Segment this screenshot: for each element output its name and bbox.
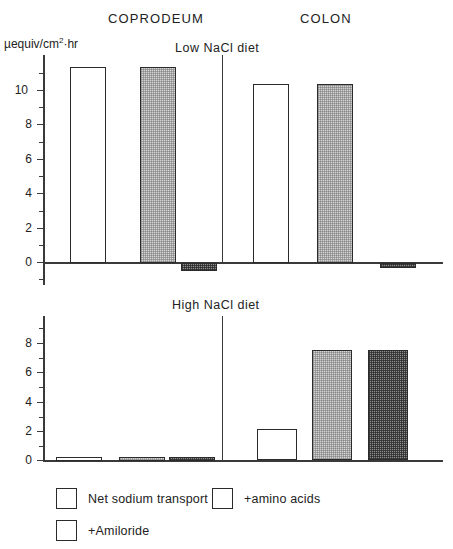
y-tick-label-4-bottom: 4 — [10, 395, 32, 409]
y-tick-major-10-top — [37, 90, 43, 91]
tissue-title-coprodeum: COPRODEUM — [108, 11, 204, 26]
unit-slash: / — [40, 37, 43, 51]
y-tick-label-8-bottom: 8 — [10, 336, 32, 350]
y-tick-major-6-top — [37, 159, 43, 160]
y-tick-major-2-bottom — [37, 431, 43, 432]
panel-divider-bottom — [222, 316, 223, 461]
y-tick-minor-7-bottom — [39, 358, 43, 359]
chart-panel-high-nacl: 0 2 4 6 8 — [0, 312, 453, 472]
legend-item-net-sodium-transport: Net sodium transport — [56, 488, 208, 509]
y-tick-minor-3-bottom — [39, 417, 43, 418]
y-tick-major-6-bottom — [37, 372, 43, 373]
y-tick-major-2-top — [37, 228, 43, 229]
legend-label-amiloride: +Amiloride — [88, 524, 149, 538]
y-tick-major-0-top — [37, 262, 43, 263]
bar-coprodeum-amiloride-high — [169, 457, 215, 461]
y-tick-label-2-bottom: 2 — [10, 424, 32, 438]
panel-divider-top — [222, 55, 223, 263]
y-tick-major-8-top — [37, 124, 43, 125]
y-tick-minor-9-bottom — [39, 328, 43, 329]
tissue-title-colon: COLON — [300, 11, 352, 26]
legend-item-amiloride: +Amiloride — [56, 520, 149, 541]
legend-label-amino-acids: +amino acids — [244, 492, 320, 506]
legend-item-amino-acids: +amino acids — [212, 488, 320, 509]
y-tick-minor-11-top — [39, 73, 43, 74]
y-tick-major-4-top — [37, 193, 43, 194]
y-tick-minor-3-top — [39, 211, 43, 212]
x-axis-baseline-bottom — [43, 460, 443, 462]
y-tick-minor-5-bottom — [39, 387, 43, 388]
y-tick-label-10-top: 10 — [6, 83, 28, 97]
y-tick-minor-1-top — [39, 245, 43, 246]
bar-coprodeum-amino-acids-low — [140, 67, 176, 263]
legend-swatch-white-icon — [56, 488, 77, 509]
y-tick-label-0-top: 0 — [10, 255, 32, 269]
bar-colon-amino-acids-high — [312, 350, 352, 460]
y-axis-unit-label: µequiv/cm2·hr — [4, 36, 78, 51]
y-tick-label-6-bottom: 6 — [10, 365, 32, 379]
legend-swatch-dark-gray-icon — [56, 520, 77, 541]
y-tick-major-8-bottom — [37, 343, 43, 344]
y-tick-minor-1-bottom — [39, 446, 43, 447]
bar-colon-net-sodium-high — [257, 429, 297, 460]
y-tick-label-0-bottom: 0 — [10, 453, 32, 467]
y-axis-line-top — [43, 55, 45, 285]
y-axis-line-bottom — [43, 316, 45, 462]
bar-coprodeum-amiloride-low — [181, 263, 217, 271]
unit-suffix: ·hr — [63, 37, 78, 51]
bar-colon-amiloride-high — [368, 350, 408, 460]
diet-title-low: Low NaCl diet — [175, 41, 259, 55]
bar-colon-amino-acids-low — [317, 84, 353, 263]
bar-colon-net-sodium-low — [253, 84, 289, 263]
chart-panel-low-nacl: 0 2 4 6 8 10 — [0, 55, 453, 290]
bar-coprodeum-net-sodium-high — [56, 457, 102, 461]
bar-coprodeum-amino-acids-high — [119, 457, 165, 461]
legend-swatch-light-gray-icon — [212, 488, 233, 509]
y-tick-label-2-top: 2 — [10, 221, 32, 235]
y-tick-major-4-bottom — [37, 402, 43, 403]
unit-denominator: cm — [43, 37, 59, 51]
y-tick-minor-5-top — [39, 176, 43, 177]
y-tick-minor-7-top — [39, 142, 43, 143]
y-tick-major-0-bottom — [37, 460, 43, 461]
y-tick-minor-9-top — [39, 107, 43, 108]
figure-root: COPRODEUM COLON µequiv/cm2·hr Low NaCl d… — [0, 0, 453, 549]
bar-coprodeum-net-sodium-low — [70, 67, 106, 263]
chart-legend: Net sodium transport +amino acids +Amilo… — [0, 488, 453, 546]
bar-colon-amiloride-low — [380, 263, 416, 268]
y-tick-label-4-top: 4 — [10, 186, 32, 200]
y-tick-minor-neg1-top — [39, 279, 43, 280]
diet-title-high: High NaCl diet — [172, 298, 260, 312]
unit-prefix: µequiv — [4, 37, 40, 51]
y-tick-label-6-top: 6 — [10, 152, 32, 166]
legend-label-net-sodium-transport: Net sodium transport — [88, 492, 208, 506]
y-tick-label-8-top: 8 — [10, 117, 32, 131]
